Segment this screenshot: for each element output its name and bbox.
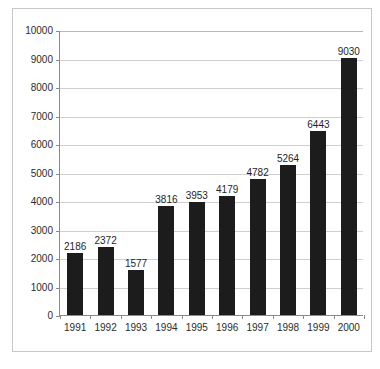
x-axis-label: 1995 xyxy=(186,323,208,333)
x-axis-label: 1998 xyxy=(277,323,299,333)
x-axis-label: 1993 xyxy=(125,323,147,333)
x-axis-tick xyxy=(121,315,122,319)
y-axis-tick xyxy=(56,145,60,146)
x-axis-tick xyxy=(151,315,152,319)
bar-value-label: 4782 xyxy=(246,168,268,178)
y-axis-label: 3000 xyxy=(31,226,53,236)
bar-value-label: 3953 xyxy=(186,191,208,201)
x-axis-label: 2000 xyxy=(338,323,360,333)
y-axis-label: 8000 xyxy=(31,83,53,93)
bar xyxy=(250,179,266,315)
y-axis-label: 1000 xyxy=(31,283,53,293)
bar-value-label: 3816 xyxy=(155,195,177,205)
gridline xyxy=(60,117,363,118)
bar xyxy=(189,202,205,315)
chart-frame: 0100020003000400050006000700080009000100… xyxy=(12,8,372,352)
bar xyxy=(98,247,114,315)
y-axis-label: 5000 xyxy=(31,169,53,179)
gridline xyxy=(60,60,363,61)
bar-value-label: 2372 xyxy=(94,236,116,246)
x-axis-tick xyxy=(60,315,61,319)
bar xyxy=(341,58,357,315)
bar-value-label: 2186 xyxy=(64,242,86,252)
gridline xyxy=(60,31,363,32)
y-axis-tick xyxy=(56,88,60,89)
x-axis-label: 1994 xyxy=(155,323,177,333)
y-axis-tick xyxy=(56,174,60,175)
x-axis-label: 1991 xyxy=(64,323,86,333)
x-axis-tick xyxy=(212,315,213,319)
bar xyxy=(219,196,235,315)
bar xyxy=(310,131,326,315)
bar-value-label: 5264 xyxy=(277,154,299,164)
y-axis-tick xyxy=(56,202,60,203)
x-axis-tick xyxy=(242,315,243,319)
bar xyxy=(280,165,296,315)
bar-value-label: 9030 xyxy=(338,47,360,57)
bar-value-label: 4179 xyxy=(216,185,238,195)
x-axis-label: 1997 xyxy=(246,323,268,333)
bar-value-label: 6443 xyxy=(307,120,329,130)
y-axis-tick xyxy=(56,60,60,61)
plot-area: 0100020003000400050006000700080009000100… xyxy=(59,31,363,316)
y-axis-label: 4000 xyxy=(31,197,53,207)
bar-value-label: 1577 xyxy=(125,259,147,269)
x-axis-label: 1992 xyxy=(94,323,116,333)
y-axis-label: 7000 xyxy=(31,112,53,122)
y-axis-label: 9000 xyxy=(31,55,53,65)
y-axis-tick xyxy=(56,117,60,118)
gridline xyxy=(60,88,363,89)
x-axis-tick xyxy=(364,315,365,319)
y-axis-tick xyxy=(56,288,60,289)
y-axis-label: 6000 xyxy=(31,140,53,150)
bar xyxy=(158,206,174,315)
x-axis-tick xyxy=(303,315,304,319)
x-axis-tick xyxy=(334,315,335,319)
x-axis-tick xyxy=(273,315,274,319)
x-axis-label: 1999 xyxy=(307,323,329,333)
x-axis-label: 1996 xyxy=(216,323,238,333)
y-axis-label: 10000 xyxy=(25,26,53,36)
y-axis-label: 2000 xyxy=(31,254,53,264)
y-axis-label: 0 xyxy=(47,311,53,321)
x-axis-tick xyxy=(182,315,183,319)
y-axis-tick xyxy=(56,231,60,232)
y-axis-tick xyxy=(56,31,60,32)
y-axis-tick xyxy=(56,259,60,260)
x-axis-tick xyxy=(90,315,91,319)
bar xyxy=(67,253,83,315)
bar xyxy=(128,270,144,315)
